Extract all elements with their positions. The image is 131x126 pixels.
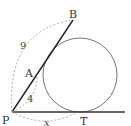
length-label-PT: x bbox=[44, 117, 50, 126]
point-label-T: T bbox=[80, 115, 88, 126]
geometry-diagram: B A P T 9 4 x bbox=[0, 0, 131, 126]
length-label-PA: 4 bbox=[27, 93, 33, 104]
length-label-PB: 9 bbox=[20, 40, 26, 51]
point-label-B: B bbox=[69, 8, 77, 21]
point-label-P: P bbox=[2, 114, 10, 126]
secant-line-PB bbox=[12, 20, 73, 112]
point-label-A: A bbox=[24, 67, 34, 80]
